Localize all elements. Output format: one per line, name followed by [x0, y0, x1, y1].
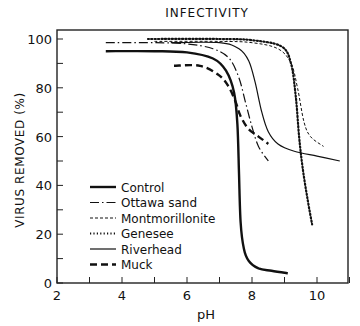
y-tick-label: 60: [35, 130, 52, 145]
x-tick-label: 2: [53, 288, 61, 303]
legend-item: Muck: [90, 258, 153, 272]
legend-label: Control: [121, 181, 164, 195]
legend: ControlOttawa sandMontmorilloniteGenesee…: [90, 181, 215, 273]
legend-label: Ottawa sand: [121, 196, 197, 210]
y-tick-label: 0: [44, 276, 52, 291]
infectivity-chart: INFECTIVITY 020406080100 246810 VIRUS RE…: [0, 0, 360, 326]
chart-title: INFECTIVITY: [165, 6, 249, 20]
series-riverhead: [171, 42, 340, 161]
y-tick-label: 40: [35, 178, 52, 193]
legend-label: Riverhead: [121, 243, 182, 257]
y-tick-label: 20: [35, 227, 52, 242]
y-tick-label: 80: [35, 81, 52, 96]
x-tick-label: 4: [118, 288, 126, 303]
legend-label: Genesee: [121, 227, 174, 241]
x-axis-label: pH: [197, 307, 215, 322]
x-tick-label: 10: [309, 288, 326, 303]
x-tick-label: 6: [183, 288, 191, 303]
y-axis-label: VIRUS REMOVED (%): [13, 92, 27, 228]
legend-item: Riverhead: [90, 243, 182, 257]
legend-item: Ottawa sand: [90, 196, 197, 210]
x-tick-label: 8: [248, 288, 256, 303]
legend-label: Montmorillonite: [121, 212, 215, 226]
legend-item: Control: [90, 181, 164, 195]
series-ottawa-sand: [106, 43, 268, 161]
legend-item: Montmorillonite: [90, 212, 215, 226]
plot-frame: [57, 30, 348, 283]
legend-label: Muck: [121, 258, 153, 272]
y-tick-label: 100: [27, 32, 52, 47]
legend-item: Genesee: [90, 227, 174, 241]
x-axis: 246810: [53, 277, 350, 303]
